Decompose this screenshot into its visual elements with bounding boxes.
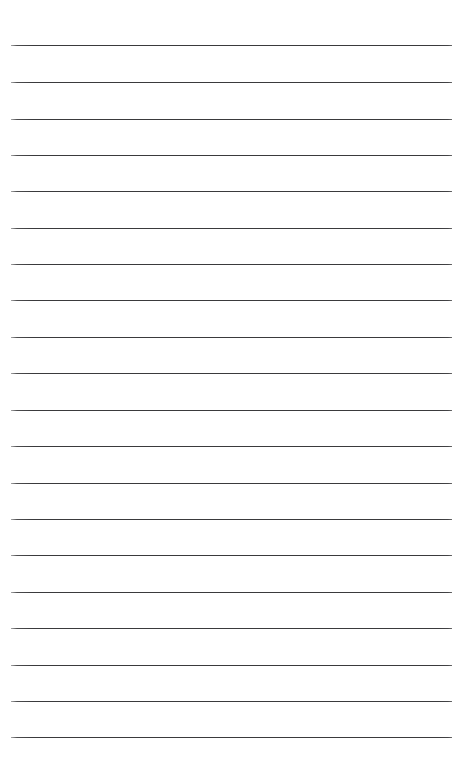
line-text bbox=[11, 135, 452, 155]
line-text bbox=[11, 208, 452, 228]
line-text bbox=[11, 645, 452, 665]
ruled-writing-area[interactable] bbox=[0, 0, 465, 766]
rule-line bbox=[11, 264, 452, 265]
rule-line bbox=[11, 45, 452, 46]
line-text bbox=[11, 390, 452, 410]
rule-line bbox=[11, 665, 452, 666]
line-text bbox=[11, 317, 452, 337]
bottom-margin-area bbox=[0, 737, 465, 766]
rule-line bbox=[11, 155, 452, 156]
line-text bbox=[11, 171, 452, 191]
rule-line bbox=[11, 701, 452, 702]
line-text bbox=[11, 535, 452, 555]
rule-line bbox=[11, 228, 452, 229]
rule-line bbox=[11, 300, 452, 301]
rule-line bbox=[11, 82, 452, 83]
line-text bbox=[11, 244, 452, 264]
lined-paper-page bbox=[0, 0, 465, 766]
line-text bbox=[11, 280, 452, 300]
rule-line bbox=[11, 410, 452, 411]
line-text bbox=[11, 717, 452, 737]
line-text bbox=[11, 572, 452, 592]
rule-line bbox=[11, 519, 452, 520]
rule-line bbox=[11, 191, 452, 192]
rule-line bbox=[11, 555, 452, 556]
rule-line bbox=[11, 483, 452, 484]
line-text bbox=[11, 681, 452, 701]
rule-line bbox=[11, 628, 452, 629]
line-text bbox=[11, 62, 452, 82]
rule-line bbox=[11, 373, 452, 374]
line-text bbox=[11, 608, 452, 628]
line-text bbox=[11, 353, 452, 373]
rule-line bbox=[11, 337, 452, 338]
line-text bbox=[11, 426, 452, 446]
line-text bbox=[11, 463, 452, 483]
rule-line bbox=[11, 592, 452, 593]
top-margin-area bbox=[0, 0, 465, 45]
rule-line bbox=[11, 446, 452, 447]
line-text bbox=[11, 499, 452, 519]
line-text bbox=[11, 99, 452, 119]
rule-line bbox=[11, 119, 452, 120]
